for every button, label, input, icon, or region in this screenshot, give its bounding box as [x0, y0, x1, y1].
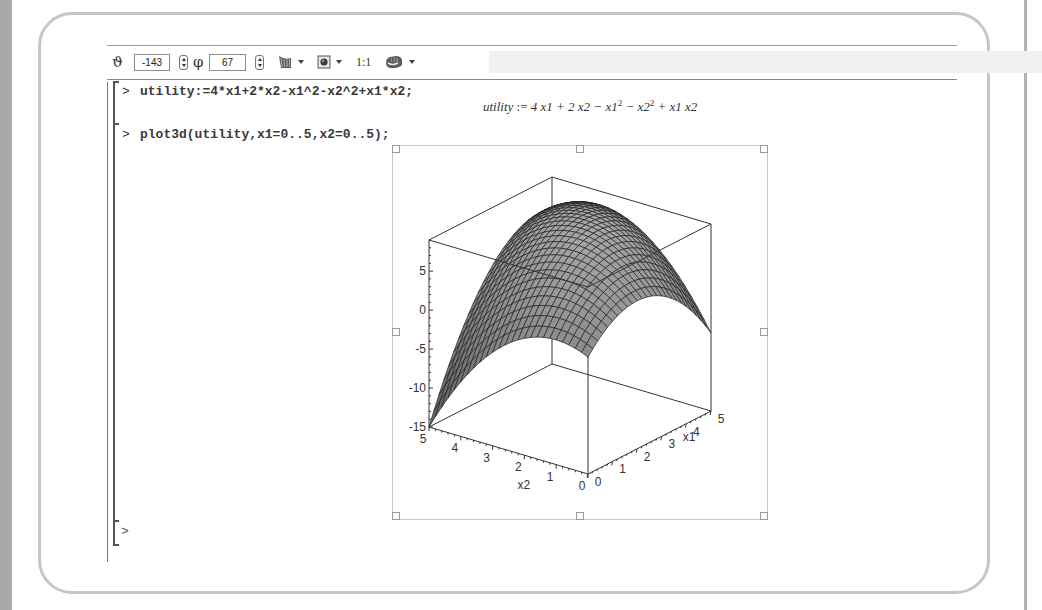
surface-style-menu[interactable] — [277, 53, 304, 71]
scale-1-1-button[interactable]: 1:1 — [356, 53, 371, 71]
toolbar-empty-area — [489, 51, 1042, 73]
svg-text:5: 5 — [420, 432, 427, 446]
svg-text:0: 0 — [419, 303, 426, 317]
svg-text:x2: x2 — [517, 478, 530, 492]
surface-mesh — [429, 202, 711, 427]
theta-icon: ϑ — [112, 53, 123, 71]
worksheet-left-rule — [107, 82, 108, 562]
phi-icon: φ — [193, 53, 204, 71]
svg-text:-15: -15 — [409, 420, 427, 434]
theta-input[interactable]: -143 — [134, 54, 170, 71]
right-edge-line — [1024, 0, 1027, 610]
svg-text:x1: x1 — [683, 430, 696, 444]
phi-spinner[interactable] — [255, 55, 264, 70]
svg-text:5: 5 — [419, 264, 426, 278]
manipulator-menu[interactable] — [384, 53, 415, 71]
command-input-utility[interactable]: utility:=4*x1+2*x2-x1^2-x2^2+x1*x2; — [140, 84, 413, 99]
lighting-icon — [317, 55, 331, 69]
chevron-down-icon — [298, 60, 304, 64]
left-edge-strip — [0, 0, 12, 610]
svg-text:-5: -5 — [415, 342, 426, 356]
chevron-down-icon — [409, 60, 415, 64]
svg-text:3: 3 — [668, 437, 675, 451]
svg-text:4: 4 — [451, 441, 458, 455]
svg-text:0: 0 — [595, 475, 602, 489]
svg-text:3: 3 — [483, 451, 490, 465]
plot-toolbar: ϑ -143 φ 67 1:1 — [107, 45, 957, 80]
surface-plot[interactable]: 012345x1543210x250-5-10-15 — [392, 145, 768, 520]
svg-text:5: 5 — [718, 412, 725, 426]
execution-group-bracket[interactable] — [113, 81, 119, 125]
empty-prompt[interactable]: > — [121, 524, 129, 539]
command-input-plot3d[interactable]: plot3d(utility,x1=0..5,x2=0..5); — [140, 127, 390, 142]
prompt-symbol: > — [122, 84, 130, 99]
hand-rotate-icon — [384, 54, 404, 70]
surface-style-icon — [277, 54, 293, 70]
svg-text:1: 1 — [619, 462, 626, 476]
svg-text:2: 2 — [644, 450, 651, 464]
svg-text:1: 1 — [547, 470, 554, 484]
theta-spinner[interactable] — [179, 55, 188, 70]
svg-text:-10: -10 — [409, 381, 427, 395]
svg-text:0: 0 — [579, 479, 586, 493]
prompt-symbol: > — [122, 127, 130, 142]
lighting-menu[interactable] — [317, 53, 342, 71]
math-output-utility: utility := 4 x1 + 2 x2 − x12 − x22 + x1 … — [483, 98, 697, 115]
svg-text:2: 2 — [515, 460, 522, 474]
execution-group-bracket[interactable] — [113, 520, 119, 546]
execution-group-bracket[interactable] — [113, 123, 119, 522]
phi-input[interactable]: 67 — [209, 54, 246, 71]
chevron-down-icon — [336, 60, 342, 64]
